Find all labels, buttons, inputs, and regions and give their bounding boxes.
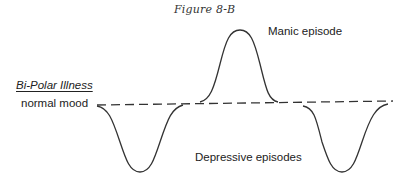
mood-curve-graphic: [0, 0, 401, 187]
bipolar-illness-diagram: Figure 8-B Bi-Polar Illness normal mood …: [0, 0, 401, 187]
manic-episode-curve: [200, 30, 278, 102]
normal-mood-baseline: [97, 101, 393, 105]
depressive-episode-curve-2: [303, 104, 388, 172]
depressive-episode-curve-1: [97, 105, 183, 172]
